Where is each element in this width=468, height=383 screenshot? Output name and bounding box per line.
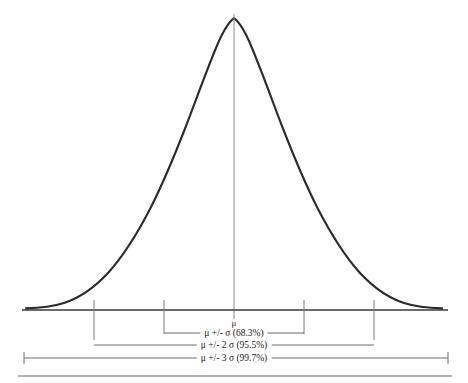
normal-distribution-figure: μ μ +/- σ (68.3%) μ +/- 2 σ (95.5%) μ +/… xyxy=(0,0,468,383)
three-sigma-label: μ +/- 3 σ (99.7%) xyxy=(197,354,272,364)
mean-label: μ xyxy=(228,319,241,328)
two-sigma-label: μ +/- 2 σ (95.5%) xyxy=(197,341,272,351)
one-sigma-label: μ +/- σ (68.3%) xyxy=(200,329,267,339)
